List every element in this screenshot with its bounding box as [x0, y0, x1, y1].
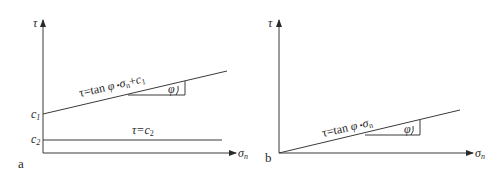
panel-label-b: b [265, 150, 272, 165]
mohr-coulomb-diagram: τ σn φ τ=tan φ •σn+c1 c1 c2 τ=c2 a τ σn … [0, 0, 498, 172]
y-axis-label-b: τ [268, 16, 273, 30]
panel-a: τ σn φ τ=tan φ •σn+c1 c1 c2 τ=c2 a [18, 16, 248, 171]
x-axis-label-a: σn [238, 146, 248, 161]
angle-arc-a [176, 86, 178, 95]
equation-line1: τ=tan φ •σn+c1 [78, 71, 147, 101]
angle-arc-b [411, 126, 413, 135]
x-axis-label-b: σn [475, 146, 485, 161]
angle-label-a: φ [168, 82, 175, 96]
angle-label-b: φ [404, 122, 411, 136]
strength-line-origin [279, 110, 460, 153]
y-axis-label-a: τ [33, 16, 38, 30]
intercept-label-c1: c1 [31, 107, 40, 122]
panel-b: τ σn φ τ=tan φ •σn b [265, 16, 485, 165]
intercept-label-c2: c2 [31, 132, 40, 147]
equation-line2: τ=c2 [132, 123, 154, 138]
panel-label-a: a [18, 156, 24, 171]
